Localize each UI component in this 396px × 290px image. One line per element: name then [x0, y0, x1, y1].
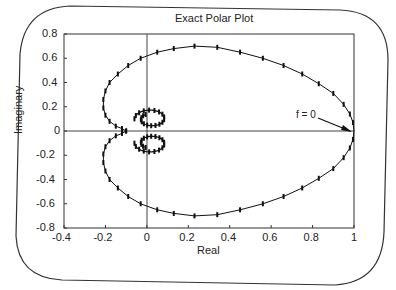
x-tick-label: 0 [144, 231, 150, 243]
x-tick-label: 0.8 [304, 231, 319, 243]
y-axis-label: Imaginary [12, 86, 24, 134]
y-tick-label: -0.8 [36, 221, 55, 233]
y-tick-label: 0.4 [42, 76, 57, 88]
x-tick-label: 0.6 [262, 231, 277, 243]
y-tick-label: 0 [54, 124, 60, 136]
x-tick-label: 1 [351, 231, 357, 243]
y-tick-label: -0.4 [36, 173, 55, 185]
y-tick-label: 0.8 [42, 27, 57, 39]
x-tick-label: 0.4 [221, 231, 236, 243]
y-tick-label: 0.2 [42, 100, 57, 112]
annotation-f0: f = 0 [296, 109, 316, 120]
y-tick-label: 0.6 [42, 51, 57, 63]
x-tick-label: -0.2 [93, 231, 112, 243]
y-tick-label: -0.6 [36, 197, 55, 209]
y-tick-label: -0.2 [36, 148, 55, 160]
chart-title: Exact Polar Plot [175, 12, 253, 24]
x-axis-label: Real [197, 244, 220, 256]
x-tick-label: 0.2 [179, 231, 194, 243]
